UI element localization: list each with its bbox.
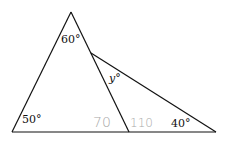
handwritten-110: 110	[130, 116, 153, 130]
handwritten-70: 70	[93, 114, 111, 130]
angle-label-bottom-right: 40°	[171, 117, 191, 130]
angle-label-top: 60°	[61, 33, 81, 46]
left-side	[12, 12, 71, 132]
angle-label-y: y°	[109, 72, 121, 85]
angle-label-bottom-left: 50°	[22, 113, 42, 126]
triangle-diagram: 60° y° 50° 40° 70 110	[0, 0, 229, 145]
